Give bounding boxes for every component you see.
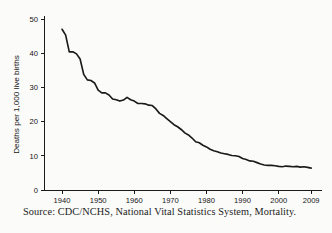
x-tick-label: 1940: [54, 196, 71, 205]
line-chart: 0102030405019401950196019701980199020002…: [0, 0, 332, 233]
x-tick-label: 2009: [303, 196, 320, 205]
infant-mortality-figure: 0102030405019401950196019701980199020002…: [0, 0, 332, 233]
x-tick-label: 2000: [270, 196, 287, 205]
y-tick-label: 20: [30, 117, 38, 126]
x-tick-label: 1960: [126, 196, 143, 205]
y-tick-label: 10: [30, 152, 38, 161]
y-tick-label: 30: [30, 83, 38, 92]
x-tick-label: 1970: [162, 196, 179, 205]
y-tick-label: 40: [30, 49, 38, 58]
x-tick-label: 1990: [234, 196, 251, 205]
x-tick-label: 1980: [198, 196, 215, 205]
y-axis-title: Deaths per 1,000 live births: [12, 55, 21, 154]
data-series-line: [62, 29, 311, 168]
y-tick-label: 0: [34, 186, 38, 195]
x-tick-label: 1950: [90, 196, 107, 205]
source-note: Source: CDC/NCHS, National Vital Statist…: [23, 206, 296, 217]
y-tick-label: 50: [30, 15, 38, 24]
